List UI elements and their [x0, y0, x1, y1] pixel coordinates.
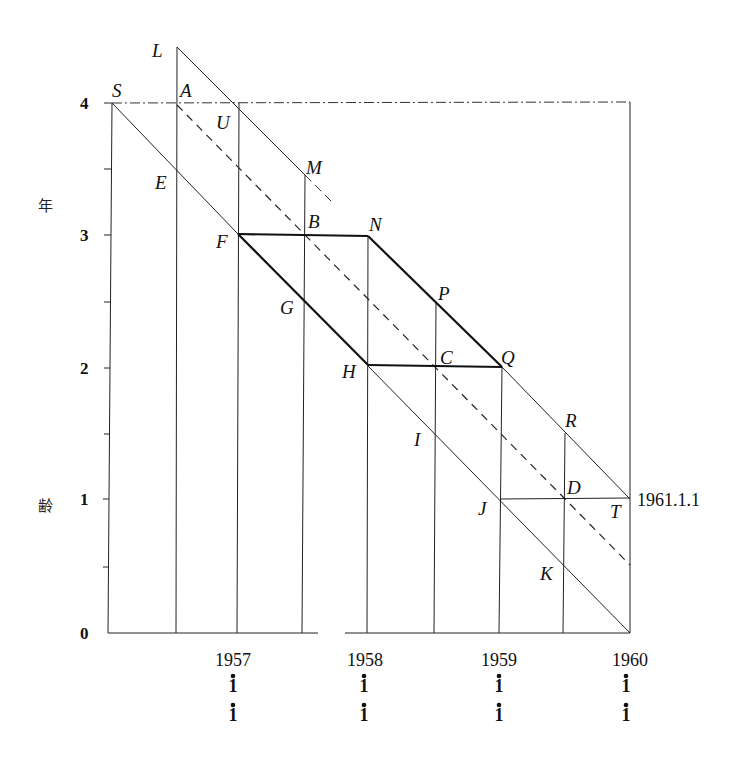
y-tick-3: 3 — [80, 226, 89, 245]
line-M-1957-5 — [302, 175, 305, 633]
x-year-1958: 1958 — [347, 650, 383, 670]
label-G: G — [280, 297, 294, 318]
label-B: B — [308, 211, 320, 232]
label-P: P — [437, 283, 450, 304]
x-label-1959: 1959 1 1 — [481, 650, 517, 725]
label-L: L — [151, 40, 163, 61]
label-K: K — [539, 563, 554, 584]
lifeline-Q-T — [502, 367, 630, 499]
line-N-1958 — [367, 236, 368, 633]
label-J: J — [478, 498, 488, 519]
x-label-1958: 1958 1 1 — [347, 650, 383, 725]
x-year-1957: 1957 — [215, 650, 251, 670]
label-N: N — [368, 214, 383, 235]
x-sub2-1959: 1 — [495, 705, 504, 725]
label-A: A — [178, 80, 192, 101]
annotation-date-label: 1961.1.1 — [637, 490, 700, 510]
x-sub1-1960: 1 — [622, 676, 631, 696]
lifeline-L-M — [177, 47, 305, 175]
label-H: H — [341, 361, 357, 382]
label-C: C — [440, 347, 453, 368]
edge-Q-H — [368, 365, 502, 367]
x-year-1960: 1960 — [612, 650, 648, 670]
x-label-1957: 1957 1 1 — [215, 650, 251, 725]
edge-N-Q — [368, 236, 502, 367]
y-tick-2: 2 — [80, 359, 89, 378]
label-M: M — [305, 157, 323, 178]
x-sub2-1957: 1 — [229, 705, 238, 725]
y-axis-title-char-1: 年 — [38, 197, 53, 215]
lifeline-M-continuation — [305, 175, 334, 204]
x-sub1-1958: 1 — [360, 676, 369, 696]
y-axis-tick-labels: 0 1 2 3 4 — [80, 94, 89, 643]
y-axis-title-char-2: 齢 — [38, 497, 53, 515]
top-border-line — [112, 102, 630, 103]
line-J-T — [500, 498, 630, 499]
vertical-lines — [176, 47, 565, 633]
x-year-1959: 1959 — [481, 650, 517, 670]
x-label-1960: 1960 1 1 — [612, 650, 648, 725]
y-tick-1: 1 — [80, 490, 89, 509]
line-P-1958-5 — [434, 302, 436, 633]
x-sub1-1959: 1 — [495, 676, 504, 696]
x-sub2-1958: 1 — [360, 705, 369, 725]
label-I: I — [413, 429, 422, 450]
line-U-1957 — [237, 103, 239, 633]
x-axis-labels: 1957 1 1 1958 1 1 1959 1 1 1960 1 1 — [215, 650, 648, 725]
highlighted-parallelogram — [238, 234, 502, 367]
x-sub1-1957: 1 — [229, 676, 238, 696]
y-tick-0: 0 — [80, 624, 89, 643]
label-Q: Q — [501, 347, 515, 368]
diagonal-lines — [112, 47, 630, 633]
label-T: T — [610, 501, 622, 522]
edge-H-F — [238, 234, 368, 365]
label-F: F — [215, 231, 228, 252]
x-sub2-1960: 1 — [622, 705, 631, 725]
dashed-lifeline-A-D — [177, 105, 630, 565]
edge-F-N — [238, 234, 368, 236]
label-S: S — [112, 80, 122, 101]
y-tick-4: 4 — [80, 94, 89, 113]
lexis-diagram: 0 1 2 3 4 年 齢 S — [0, 0, 755, 762]
label-U: U — [216, 112, 231, 133]
label-R: R — [564, 410, 577, 431]
line-R-1959-5 — [563, 433, 565, 633]
label-D: D — [566, 477, 581, 498]
line-L-1956-5 — [176, 47, 177, 633]
label-E: E — [154, 172, 167, 193]
